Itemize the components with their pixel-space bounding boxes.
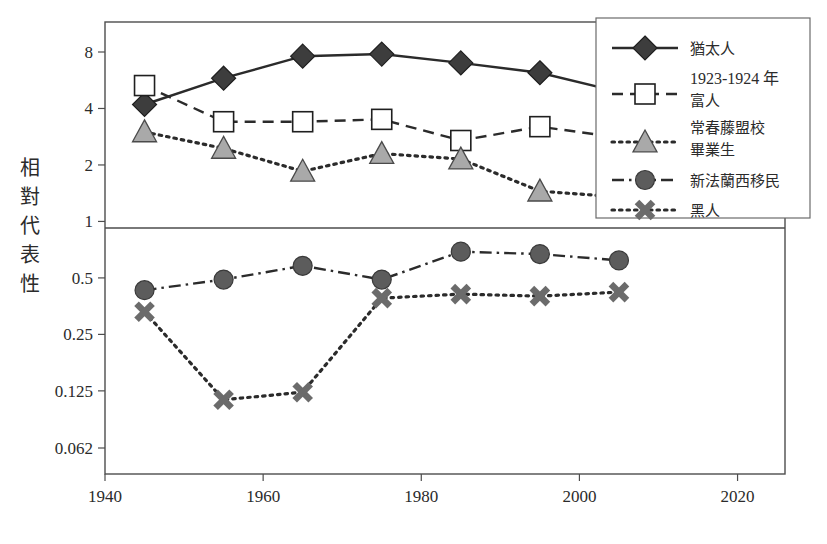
data-point-diamond-0-2: [291, 44, 315, 68]
data-point-circle-legend-3: [636, 171, 655, 190]
legend-label-1-line2: 富人: [690, 92, 720, 110]
data-point-circle-3-0: [135, 281, 154, 300]
x-tick-label-1940: 1940: [88, 487, 122, 506]
y-axis-title-char-2: 代: [20, 214, 40, 238]
data-point-square-legend-1: [635, 84, 655, 104]
data-point-square-1-1: [214, 112, 234, 132]
x-tick-label-1980: 1980: [404, 487, 438, 506]
y-axis-title-char-3: 表: [20, 243, 40, 267]
data-point-square-1-3: [372, 109, 392, 129]
data-point-circle-3-6: [609, 251, 628, 270]
y-axis-title-char-0: 相: [20, 156, 40, 180]
y-tick-label-0.062: 0.062: [55, 439, 93, 458]
y-tick-label-8: 8: [85, 43, 94, 62]
series-line-4: [145, 292, 619, 400]
data-point-square-1-5: [530, 117, 550, 137]
y-tick-label-2: 2: [85, 156, 94, 175]
data-point-circle-3-5: [530, 245, 549, 264]
data-point-square-1-2: [293, 112, 313, 132]
data-point-circle-3-1: [214, 270, 233, 289]
series-1: [135, 76, 629, 151]
series-0: [133, 42, 631, 116]
legend-label-3: 新法蘭西移民: [690, 172, 780, 190]
chart-legend: 猶太人1923-1924 年富人常春藤盟校畢業生新法蘭西移民黑人: [596, 18, 810, 220]
series-2: [133, 120, 631, 207]
x-axis-ticks: [105, 474, 738, 481]
chart-container: 84210.50.250.1250.062 194019601980200020…: [0, 0, 827, 544]
data-point-diamond-0-5: [528, 61, 552, 85]
data-point-diamond-0-1: [212, 66, 236, 90]
data-point-triangle-2-5: [528, 179, 552, 201]
data-point-cross-4-0: [137, 304, 153, 320]
legend-label-1: 1923-1924 年: [690, 70, 779, 87]
data-point-diamond-0-4: [449, 51, 473, 75]
x-tick-label-2020: 2020: [721, 487, 755, 506]
data-point-triangle-2-0: [133, 120, 157, 142]
legend-label-4: 黑人: [690, 202, 720, 220]
legend-label-2: 常春藤盟校: [690, 119, 765, 137]
series-3: [135, 242, 628, 300]
y-axis-title: 相對代表性: [20, 156, 40, 296]
data-point-square-1-0: [135, 76, 155, 96]
y-tick-label-1: 1: [85, 212, 94, 231]
y-tick-label-0.5: 0.5: [72, 269, 93, 288]
x-axis-tick-labels: 19401960198020002020: [88, 487, 755, 506]
y-tick-label-0.125: 0.125: [55, 382, 93, 401]
data-point-circle-3-4: [451, 242, 470, 261]
y-axis-ticks: [98, 52, 105, 448]
data-point-triangle-2-1: [212, 136, 236, 158]
data-series-layer: [133, 42, 631, 408]
relative-representation-line-chart: 84210.50.250.1250.062 194019601980200020…: [0, 0, 827, 544]
data-point-circle-3-3: [372, 270, 391, 289]
data-point-diamond-0-3: [370, 42, 394, 66]
data-point-circle-3-2: [293, 256, 312, 275]
legend-label-2-line2: 畢業生: [690, 141, 735, 159]
series-4: [137, 284, 627, 408]
y-tick-label-4: 4: [85, 99, 94, 118]
y-axis-tick-labels: 84210.50.250.1250.062: [55, 43, 94, 458]
y-axis-title-char-4: 性: [20, 272, 40, 296]
y-tick-label-0.25: 0.25: [63, 325, 93, 344]
legend-label-0: 猶太人: [690, 40, 735, 58]
x-tick-label-1960: 1960: [246, 487, 280, 506]
y-axis-title-char-1: 對: [20, 185, 40, 209]
data-point-cross-4-6: [611, 284, 627, 300]
data-point-cross-4-2: [295, 384, 311, 400]
x-tick-label-2000: 2000: [562, 487, 596, 506]
data-point-triangle-2-3: [370, 142, 394, 164]
